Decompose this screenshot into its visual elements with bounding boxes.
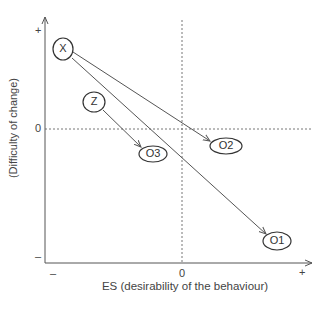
- y-tick-zero: 0: [35, 122, 41, 134]
- x-axis-label: ES (desirability of the behaviour): [80, 280, 290, 292]
- node-o2-label: O2: [210, 139, 242, 151]
- y-tick-min: –: [35, 250, 41, 262]
- y-tick-max: +: [35, 24, 41, 36]
- node-o1-label: O1: [263, 234, 291, 246]
- node-z-label: Z: [84, 95, 104, 107]
- x-tick-zero: 0: [179, 267, 185, 279]
- x-tick-max: +: [299, 266, 305, 278]
- node-x-label: X: [53, 42, 73, 54]
- node-o3-label: O3: [139, 147, 167, 159]
- y-axis-label: (Difficulty of change): [7, 63, 19, 193]
- x-tick-min: –: [50, 267, 56, 279]
